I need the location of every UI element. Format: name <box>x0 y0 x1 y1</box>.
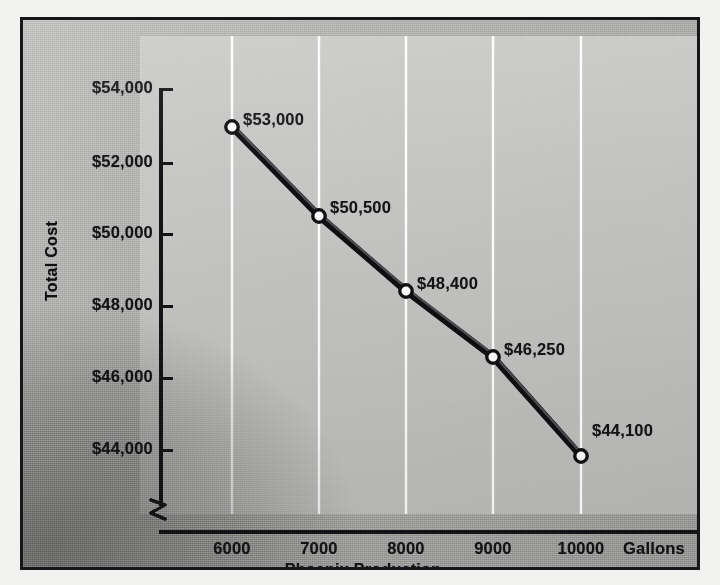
data-point-9000[interactable] <box>487 351 499 363</box>
x-tick-label-6000: 6000 <box>213 539 251 558</box>
data-point-8000[interactable] <box>400 285 412 297</box>
y-tick-54000 <box>159 88 173 91</box>
x-tick-label-8000: 8000 <box>387 539 425 558</box>
y-tick-label-44000: $44,000 <box>92 439 153 458</box>
data-point-7000[interactable] <box>313 210 325 222</box>
point-label-9000: $46,250 <box>504 340 565 359</box>
y-tick-label-48000: $48,000 <box>92 295 153 314</box>
x-axis-line <box>159 530 700 534</box>
x-tick-label-9000: 9000 <box>474 539 512 558</box>
point-label-7000: $50,500 <box>330 198 391 217</box>
y-tick-label-50000: $50,000 <box>92 223 153 242</box>
y-tick-label-52000: $52,000 <box>92 152 153 171</box>
x-tick-label-10000: 10000 <box>558 539 605 558</box>
y-tick-46000 <box>159 377 173 380</box>
plot-area: $53,000 $50,500 $48,400 $46,250 $44,100 <box>140 36 700 514</box>
y-tick-52000 <box>159 162 173 165</box>
chart-card: $53,000 $50,500 $48,400 $46,250 $44,100 … <box>20 17 700 570</box>
gridlines <box>232 36 581 514</box>
y-tick-44000 <box>159 449 173 452</box>
x-axis-title: Phoenix Production <box>23 561 700 570</box>
y-tick-50000 <box>159 233 173 236</box>
y-tick-label-54000: $54,000 <box>92 78 153 97</box>
data-point-10000[interactable] <box>575 450 587 462</box>
point-label-10000: $44,100 <box>592 421 653 440</box>
y-axis-title: Total Cost <box>43 196 61 326</box>
scanned-page: $53,000 $50,500 $48,400 $46,250 $44,100 … <box>0 0 720 585</box>
y-tick-48000 <box>159 305 173 308</box>
point-label-8000: $48,400 <box>417 274 478 293</box>
x-tick-label-7000: 7000 <box>300 539 338 558</box>
point-label-6000: $53,000 <box>243 110 304 129</box>
data-point-6000[interactable] <box>226 121 238 133</box>
y-tick-label-46000: $46,000 <box>92 367 153 386</box>
x-axis-unit-label: Gallons <box>623 539 685 558</box>
